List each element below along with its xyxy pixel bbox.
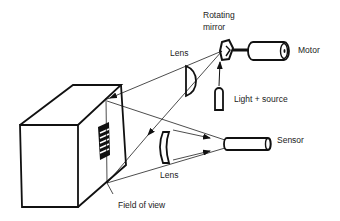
motor [248, 42, 289, 60]
label-rotating-mirror-2: mirror [203, 22, 225, 32]
label-light-source: Light + source [234, 94, 288, 104]
label-lens-upper: Lens [170, 48, 188, 58]
label-lens-lower: Lens [160, 170, 178, 180]
label-sensor: Sensor [277, 135, 304, 145]
rotating-mirror [220, 40, 249, 60]
scanner-diagram: Rotating mirror Motor Lens Light + sourc… [0, 0, 340, 221]
sensor [224, 138, 271, 150]
lower-lens [160, 132, 169, 163]
vent-grille [98, 122, 110, 160]
light-source [215, 62, 223, 110]
label-field-of-view: Field of view [118, 200, 166, 210]
label-motor: Motor [298, 45, 320, 55]
label-rotating-mirror-1: Rotating [203, 10, 235, 20]
upper-lens [186, 66, 196, 96]
